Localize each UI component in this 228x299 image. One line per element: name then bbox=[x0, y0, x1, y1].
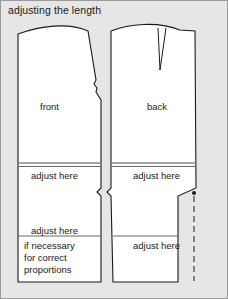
front-adjust-upper-label: adjust here bbox=[31, 170, 78, 181]
front-note-line-2: for correct bbox=[24, 252, 67, 263]
front-adjust-lower-label: adjust here bbox=[31, 225, 78, 236]
back-match-dot bbox=[192, 191, 196, 195]
pattern-figure: adjusting the length front back adjust h… bbox=[0, 0, 228, 299]
back-adjust-upper-label: adjust here bbox=[133, 170, 180, 181]
front-note-line-3: proportions bbox=[24, 264, 72, 275]
front-note-line-1: if necessary bbox=[24, 240, 75, 251]
back-piece-label: back bbox=[147, 101, 167, 112]
back-adjust-lower-label: adjust here bbox=[133, 240, 180, 251]
front-piece-label: front bbox=[40, 101, 59, 112]
